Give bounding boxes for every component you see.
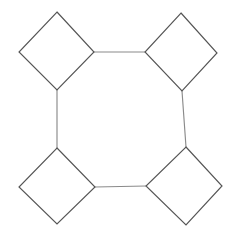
geometric-figure-svg — [0, 0, 236, 236]
bottom-right-square — [146, 147, 222, 225]
top-left-square — [19, 12, 94, 90]
connectors-group — [57, 52, 186, 187]
bottom-connector-line — [95, 186, 146, 187]
right-connector-line — [182, 91, 186, 147]
squares-group — [19, 12, 222, 225]
figure-canvas — [0, 0, 236, 236]
top-right-square — [145, 13, 217, 91]
bottom-left-square — [19, 148, 95, 224]
